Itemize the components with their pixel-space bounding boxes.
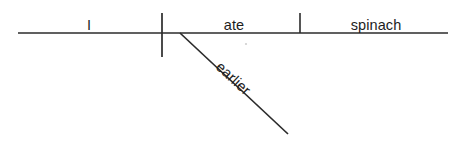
scan-speck (245, 43, 247, 45)
word-adverb: earlier (213, 58, 254, 98)
word-subject: I (87, 17, 91, 33)
sentence-diagram-svg: I ate spinach earlier (0, 0, 454, 142)
sentence-diagram-canvas: I ate spinach earlier (0, 0, 454, 142)
word-direct-object: spinach (351, 17, 402, 33)
word-verb: ate (224, 17, 244, 33)
